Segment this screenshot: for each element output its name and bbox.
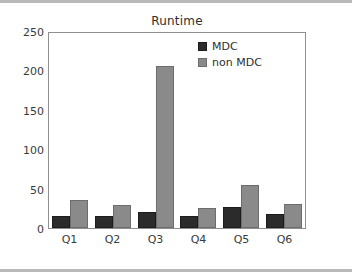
y-tick-label: 0	[4, 223, 44, 236]
y-tick-label: 200	[4, 65, 44, 78]
x-tick-label: Q6	[263, 233, 306, 253]
plot-area	[49, 33, 305, 228]
chart-legend: MDCnon MDC	[198, 40, 262, 69]
bar	[70, 200, 88, 228]
bar-group-q6	[262, 33, 305, 228]
bar	[52, 216, 70, 228]
bar-group-q3	[134, 33, 177, 228]
plot-frame	[48, 32, 306, 229]
legend-swatch-icon	[198, 58, 207, 67]
bar	[113, 205, 131, 228]
bar	[241, 185, 259, 228]
x-tick-label: Q1	[48, 233, 91, 253]
bar	[198, 208, 216, 228]
bar	[95, 216, 113, 228]
bar	[156, 66, 174, 228]
legend-entry: non MDC	[198, 56, 262, 69]
x-tick-label: Q3	[134, 233, 177, 253]
legend-swatch-icon	[198, 42, 207, 51]
chart-figure: Runtime 050100150200250 MDCnon MDC Q1Q2Q…	[0, 0, 352, 272]
y-tick-label: 250	[4, 26, 44, 39]
bar-series-container	[49, 33, 305, 228]
bar	[180, 216, 198, 228]
legend-label: MDC	[212, 40, 238, 53]
bar-group-q1	[49, 33, 92, 228]
y-axis: 050100150200250	[0, 32, 44, 229]
y-tick-label: 150	[4, 104, 44, 117]
x-tick-label: Q5	[220, 233, 263, 253]
bar	[266, 214, 284, 228]
legend-label: non MDC	[212, 56, 262, 69]
x-tick-label: Q2	[91, 233, 134, 253]
x-tick-label: Q4	[177, 233, 220, 253]
chart-title: Runtime	[48, 14, 306, 28]
bar-group-q2	[92, 33, 135, 228]
legend-entry: MDC	[198, 40, 262, 53]
top-divider	[0, 0, 352, 3]
y-tick-label: 50	[4, 183, 44, 196]
y-tick-label: 100	[4, 144, 44, 157]
bar	[284, 204, 302, 228]
bar	[223, 207, 241, 228]
bar	[138, 212, 156, 228]
x-axis: Q1Q2Q3Q4Q5Q6	[48, 233, 306, 253]
